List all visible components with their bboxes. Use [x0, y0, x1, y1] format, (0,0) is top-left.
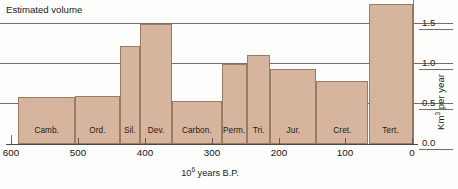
bar-ord	[75, 96, 120, 144]
y-axis-title: Km3 per year	[435, 20, 446, 130]
bar-label-tri: Tri.	[247, 126, 270, 135]
xtick-label-300: 300	[195, 147, 229, 158]
xtick-mark-0	[412, 138, 413, 144]
bar-label-dev: Dev.	[140, 126, 172, 135]
ytick-label-1-5: 1.5	[422, 17, 435, 28]
xtick-mark-400	[145, 138, 146, 144]
xtick-label-500: 500	[61, 147, 95, 158]
bar-label-cret: Cret.	[316, 126, 368, 135]
xtick-label-100: 100	[328, 147, 362, 158]
xtick-label-200: 200	[262, 147, 296, 158]
bar-label-perm: Perm.	[220, 126, 248, 135]
xtick-label-600: 600	[0, 147, 28, 158]
plot-area: Camb. Ord. Sil. Dev. Carbon. Perm. Tri. …	[0, 0, 458, 189]
bar-label-camb: Camb.	[18, 126, 75, 135]
y-axis-line	[413, 0, 414, 144]
xtick-mark-300	[212, 138, 213, 144]
chart-title: Estimated volume	[6, 4, 82, 15]
ytick-label-0-5: 0.5	[422, 97, 435, 108]
bar-label-jur: Jur.	[270, 126, 316, 135]
ytick-label-1-0: 1.0	[422, 57, 435, 68]
bar-tert	[369, 4, 413, 144]
ytick-label-0-0: 0.0	[422, 137, 435, 148]
xtick-label-400: 400	[128, 147, 162, 158]
bar-label-carbon: Carbon.	[172, 126, 222, 135]
xtick-mark-600	[11, 138, 12, 144]
xtick-mark-500	[78, 138, 79, 144]
xtick-mark-100	[345, 138, 346, 144]
ytick-rule-0-0	[419, 149, 453, 150]
bar-carbon	[172, 101, 222, 144]
x-axis-title: 106 years B.P.	[0, 168, 420, 178]
bar-camb	[18, 97, 75, 143]
bar-label-ord: Ord.	[75, 126, 120, 135]
bar-label-tert: Tert.	[369, 126, 413, 135]
bar-label-sil: Sil.	[120, 126, 140, 135]
xtick-mark-200	[279, 138, 280, 144]
chart-figure: Camb. Ord. Sil. Dev. Carbon. Perm. Tri. …	[0, 0, 458, 189]
